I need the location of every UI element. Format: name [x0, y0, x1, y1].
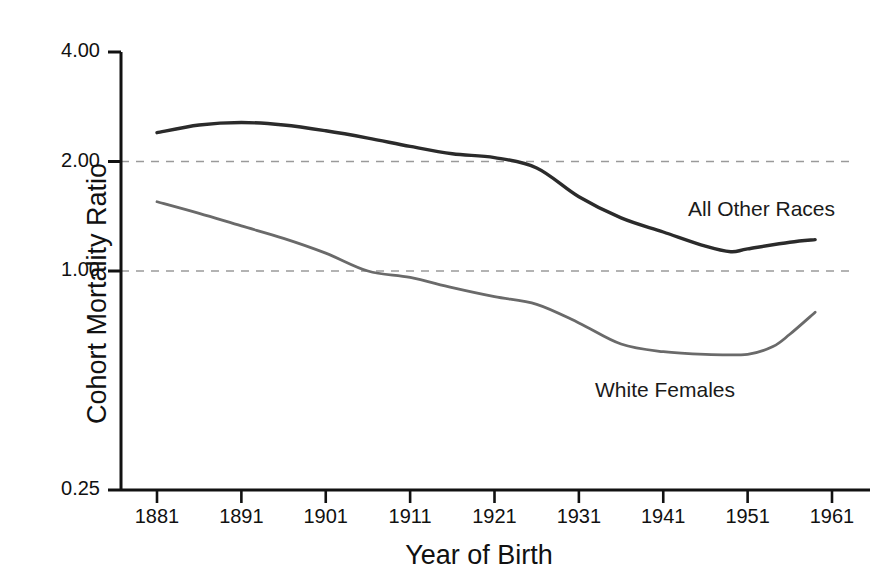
- x-tick-label-1951: 1951: [708, 505, 788, 528]
- cohort-mortality-ratio-chart: Cohort Mortality Ratio Year of Birth 4.0…: [0, 0, 877, 584]
- x-tick-label-1961: 1961: [792, 505, 872, 528]
- series-label-white-females: White Females: [595, 378, 735, 402]
- series-line-all-other-races: [157, 123, 815, 252]
- x-tick-label-1901: 1901: [286, 505, 366, 528]
- data-series-group: [157, 123, 815, 356]
- x-tick-marks-group: [157, 490, 832, 503]
- series-line-white-females: [157, 202, 815, 355]
- x-tick-label-1941: 1941: [623, 505, 703, 528]
- x-tick-label-1881: 1881: [117, 505, 197, 528]
- y-tick-label-1.00: 1.00: [30, 258, 100, 281]
- y-tick-label-0.25: 0.25: [30, 477, 100, 500]
- x-axis-title: Year of Birth: [121, 540, 837, 571]
- x-tick-label-1891: 1891: [201, 505, 281, 528]
- y-tick-label-4.00: 4.00: [30, 39, 100, 62]
- x-tick-label-1921: 1921: [455, 505, 535, 528]
- x-tick-label-1911: 1911: [370, 505, 450, 528]
- series-label-all-other-races: All Other Races: [688, 197, 835, 221]
- y-tick-label-2.00: 2.00: [30, 149, 100, 172]
- chart-plot-area: [0, 0, 877, 584]
- x-tick-label-1931: 1931: [539, 505, 619, 528]
